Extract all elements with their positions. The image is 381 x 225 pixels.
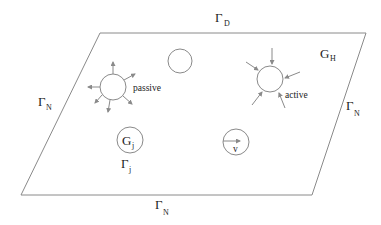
gamma-j-label: Γ (121, 156, 129, 171)
svg-text:j: j (131, 141, 134, 150)
svg-text:Γ: Γ (346, 98, 354, 113)
svg-text:Γ: Γ (215, 10, 223, 25)
svg-text:Γ: Γ (38, 94, 46, 109)
plain-inclusion (168, 49, 192, 73)
active-label: active (285, 90, 308, 100)
svg-text:N: N (354, 109, 360, 118)
svg-text:N: N (163, 208, 169, 217)
velocity-label: v (233, 144, 238, 154)
boundary-label-bottom: Γ N (155, 197, 169, 217)
boundary-label-left: Γ N (38, 94, 52, 112)
region-label-gh: G H (320, 46, 336, 63)
velocity-inclusion: v (223, 129, 249, 155)
boundary-label-top: Γ D (215, 10, 230, 28)
svg-text:N: N (46, 103, 52, 112)
passive-inclusion: passive (88, 62, 161, 112)
outward-arrows-icon (88, 62, 135, 112)
svg-text:j: j (128, 165, 131, 174)
svg-text:G: G (320, 46, 329, 61)
active-inclusion: active (246, 48, 308, 108)
svg-text:H: H (330, 54, 336, 63)
domain-diagram: Γ D Γ N Γ N Γ N G H passive (0, 0, 381, 225)
domain-parallelogram (21, 33, 366, 195)
svg-text:G: G (122, 133, 131, 148)
svg-text:Γ: Γ (155, 197, 163, 212)
boundary-label-right: Γ N (346, 98, 360, 118)
gj-inclusion: G j Γ j (117, 127, 143, 174)
svg-text:D: D (224, 19, 230, 28)
passive-label: passive (133, 83, 161, 93)
